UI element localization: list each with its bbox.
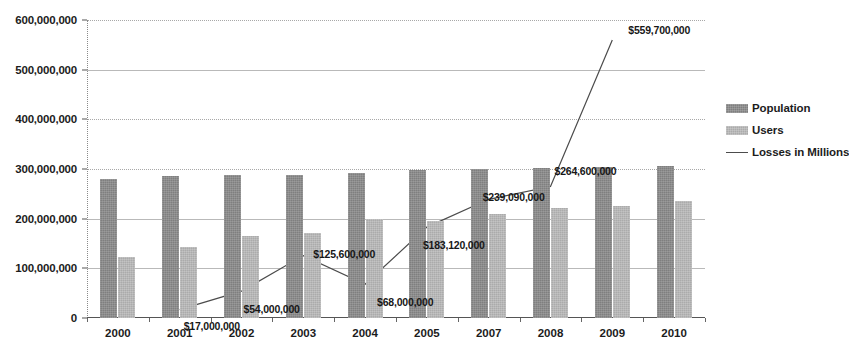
x-axis-tick-label: 2009 — [600, 327, 626, 339]
data-label-losses: $125,600,000 — [313, 248, 375, 260]
x-axis-tick-label: 2000 — [105, 327, 131, 339]
x-axis-tick-label: 2002 — [229, 327, 255, 339]
x-axis-tick — [581, 318, 582, 322]
bar-users — [675, 201, 692, 318]
data-label-losses: $559,700,000 — [628, 24, 690, 36]
data-label-losses: $68,000,000 — [377, 296, 433, 308]
x-axis-tick — [705, 318, 706, 322]
legend-label-losses: Losses in Millions — [752, 146, 849, 158]
x-axis-tick — [149, 318, 150, 322]
y-axis-tick-label: 400,000,000 — [15, 113, 77, 125]
y-axis-tick-label: 600,000,000 — [15, 14, 77, 26]
y-axis-tick-label: 300,000,000 — [15, 163, 77, 175]
bar-population — [286, 175, 303, 318]
legend-item-losses: Losses in Millions — [726, 142, 849, 162]
chart-legend: Population Users Losses in Millions — [726, 98, 849, 164]
data-label-losses: $54,000,000 — [244, 303, 300, 315]
plot-area: $17,000,000$54,000,000$125,600,000$68,00… — [87, 20, 705, 318]
legend-item-users: Users — [726, 120, 849, 140]
data-label-losses: $264,600,000 — [555, 165, 617, 177]
bar-population — [162, 176, 179, 318]
legend-label-users: Users — [752, 124, 783, 136]
x-axis-tick — [458, 318, 459, 322]
bar-population — [348, 173, 365, 318]
bar-population — [533, 168, 550, 318]
legend-swatch-losses-line-icon — [726, 148, 748, 157]
data-label-losses: $239,090,000 — [483, 191, 545, 203]
x-axis-tick-label: 2003 — [291, 327, 317, 339]
x-axis-tick — [272, 318, 273, 322]
y-axis-tick-label: 500,000,000 — [15, 64, 77, 76]
bar-users — [613, 206, 630, 318]
bar-users — [180, 247, 197, 318]
y-axis-tick-label: 0 — [71, 312, 77, 324]
x-axis-tick — [87, 318, 88, 322]
legend-label-population: Population — [752, 102, 810, 114]
bar-users — [489, 214, 506, 318]
y-axis-labels: 0100,000,000200,000,000300,000,000400,00… — [0, 20, 82, 318]
x-axis-tick-label: 2004 — [352, 327, 378, 339]
x-axis-tick-label: 2010 — [661, 327, 687, 339]
bar-population — [100, 179, 117, 318]
bar-population — [657, 166, 674, 318]
bar-population — [224, 175, 241, 318]
legend-item-population: Population — [726, 98, 849, 118]
x-axis-tick-label: 2007 — [476, 327, 502, 339]
legend-swatch-users-icon — [726, 126, 748, 135]
x-axis-tick-label: 2005 — [414, 327, 440, 339]
data-label-losses: $183,120,000 — [423, 239, 485, 251]
bar-population — [595, 167, 612, 318]
x-axis-tick-label: 2001 — [167, 327, 193, 339]
x-axis-tick-label: 2008 — [538, 327, 564, 339]
x-axis-tick — [334, 318, 335, 322]
chart-container: 0100,000,000200,000,000300,000,000400,00… — [0, 0, 849, 348]
y-axis-tick-label: 200,000,000 — [15, 213, 77, 225]
x-axis-tick — [643, 318, 644, 322]
x-axis-tick — [396, 318, 397, 322]
x-axis-labels: 2000200120022003200420052007200820092010 — [87, 322, 705, 346]
legend-swatch-population-icon — [726, 104, 748, 113]
x-axis-tick — [520, 318, 521, 322]
bar-users — [551, 208, 568, 318]
y-axis-tick-label: 100,000,000 — [15, 262, 77, 274]
bar-users — [118, 257, 135, 318]
bar-users — [304, 233, 321, 318]
x-axis-tick — [211, 318, 212, 322]
